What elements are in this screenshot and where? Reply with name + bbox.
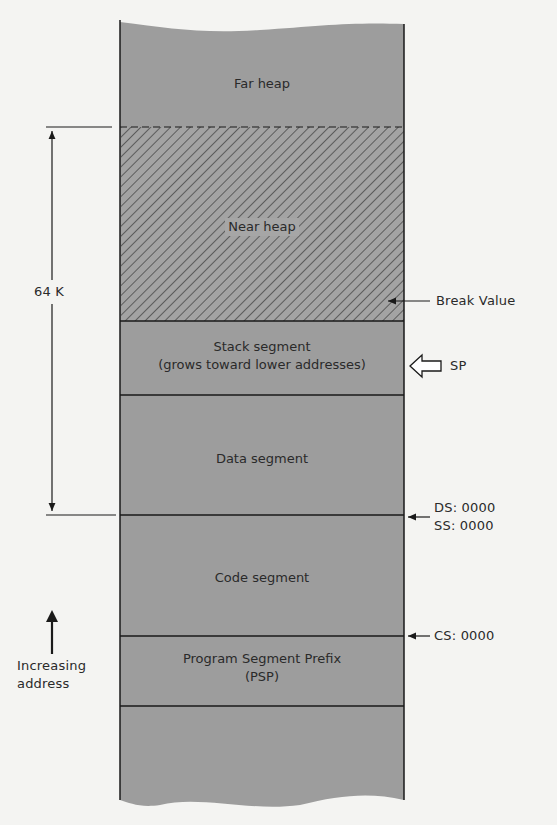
psp-label: Program Segment Prefix (PSP) (120, 650, 404, 686)
cs-label: CS: 0000 (434, 628, 495, 643)
code-segment-label: Code segment (120, 569, 404, 587)
sp-arrow-icon (410, 355, 441, 377)
increasing-label: Increasing (17, 658, 86, 673)
far-heap-label: Far heap (120, 75, 404, 93)
sp-label: SP (450, 358, 467, 373)
stack-segment-label: Stack segment (grows toward lower addres… (120, 338, 404, 374)
ds-label: DS: 0000 (434, 500, 495, 515)
address-label: address (17, 676, 69, 691)
near-heap-label: Near heap (120, 218, 404, 236)
memory-map-diagram (0, 0, 557, 825)
data-segment-label: Data segment (120, 450, 404, 468)
size-label-64k: 64 K (34, 284, 64, 299)
ss-label: SS: 0000 (434, 518, 494, 533)
break-value-label: Break Value (436, 293, 516, 308)
